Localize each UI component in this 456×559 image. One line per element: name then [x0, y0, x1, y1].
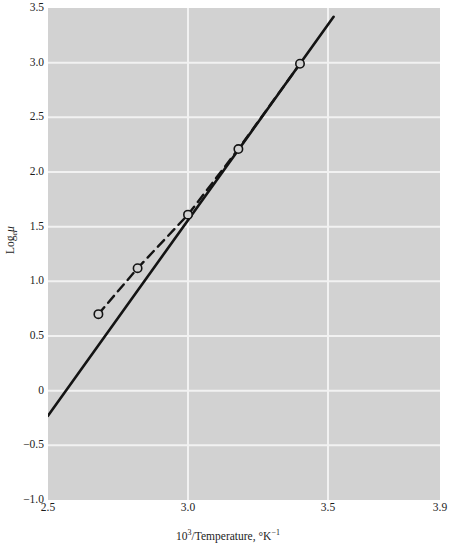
y-tick-label-2: 2.5	[0, 111, 44, 122]
data-point-marker	[296, 60, 304, 68]
x-tick-label-2: 3.5	[308, 502, 348, 513]
y-tick-label-5: 1.0	[0, 275, 44, 286]
y-tick-label-1: 3.0	[0, 57, 44, 68]
x-tick-label-0: 2.5	[28, 502, 68, 513]
x-tick-label-3: 3.9	[420, 502, 456, 513]
x-axis-title-middle: /Temperature, °K	[192, 530, 272, 542]
y-axis-title-variable: μ	[4, 226, 16, 232]
x-axis-title-base: 10	[176, 530, 188, 542]
x-axis-title-exponent-2: −1	[271, 528, 280, 537]
y-axis-title-subscript: e	[10, 232, 19, 236]
series-line-1	[98, 64, 300, 314]
y-tick-label-6: 0.5	[0, 330, 44, 341]
chart-canvas	[48, 8, 440, 500]
x-tick-label-1: 3.0	[168, 502, 208, 513]
data-point-markers	[94, 60, 304, 319]
y-tick-label-3: 2.0	[0, 166, 44, 177]
gridlines	[48, 8, 440, 500]
y-axis-title-base: Log	[4, 235, 16, 254]
data-point-marker	[133, 264, 141, 272]
y-tick-label-8: −0.5	[0, 439, 44, 450]
data-point-marker	[184, 210, 192, 218]
y-tick-label-0: 3.5	[0, 2, 44, 13]
chart-figure: 3.53.02.52.01.51.00.50−0.5−1.0 2.53.03.5…	[0, 0, 456, 559]
data-point-marker	[94, 310, 102, 318]
y-tick-label-7: 0	[0, 385, 44, 396]
data-point-marker	[234, 145, 242, 153]
x-axis-title: 103/Temperature, °K−1	[0, 528, 456, 542]
plot-area	[48, 8, 440, 500]
